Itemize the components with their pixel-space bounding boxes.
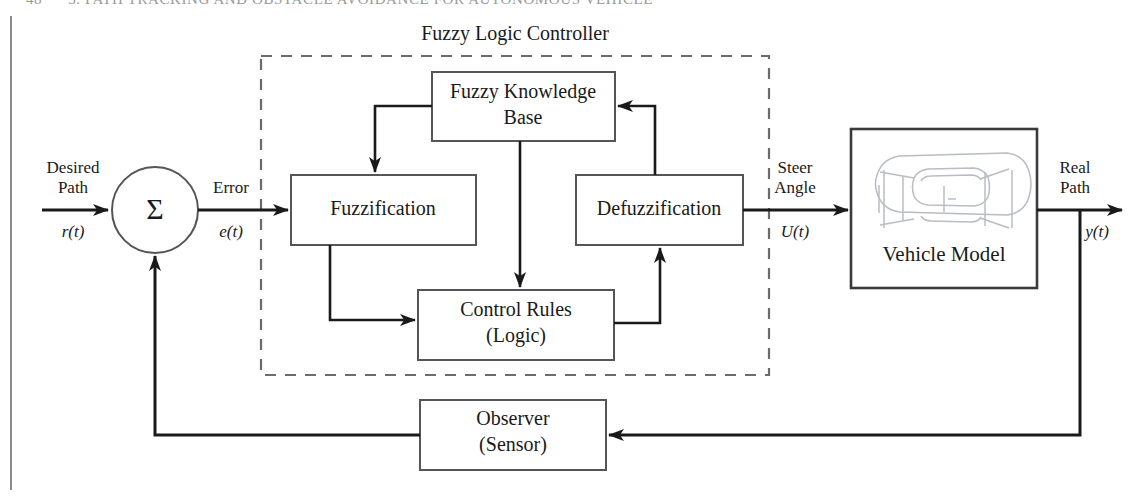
signal-output-line1: Real bbox=[1059, 158, 1090, 177]
observer-label-line2: (Sensor) bbox=[479, 434, 547, 456]
control-rules-label-line1: Control Rules bbox=[460, 299, 572, 321]
fuzzy-logic-controller-title: Fuzzy Logic Controller bbox=[421, 22, 609, 44]
summing-junction-symbol: Σ bbox=[146, 192, 163, 226]
signal-output-line2: Path bbox=[1060, 178, 1090, 197]
signal-control-line2: Angle bbox=[774, 178, 816, 197]
signal-error-line1: Error bbox=[213, 178, 249, 197]
signal-input-line2: Path bbox=[58, 178, 88, 197]
fuzzification-label: Fuzzification bbox=[330, 197, 436, 219]
connector-observer-to-sum bbox=[155, 256, 420, 435]
fuzzy-knowledge-base-label-line2: Base bbox=[504, 107, 543, 129]
connector-fuzzification-to-control-rules bbox=[330, 245, 415, 320]
control-rules-label-line2: (Logic) bbox=[486, 325, 546, 347]
fuzzy-knowledge-base-label-line1: Fuzzy Knowledge bbox=[450, 81, 596, 103]
observer-label-line1: Observer bbox=[476, 408, 549, 430]
connector-fkb-to-fuzzification bbox=[375, 106, 432, 172]
signal-input-line1: Desired bbox=[47, 158, 100, 177]
connector-control-rules-to-defuzzification bbox=[614, 248, 660, 323]
signal-output-symbol: y(t) bbox=[1085, 222, 1109, 241]
defuzzification-label: Defuzzification bbox=[597, 197, 721, 219]
connector-defuzzification-to-fkb bbox=[618, 106, 655, 175]
signal-error-symbol: e(t) bbox=[219, 222, 243, 241]
vehicle-model-label: Vehicle Model bbox=[882, 243, 1005, 267]
diagram-page: 483. PATH TRACKING AND OBSTACLE AVOIDANC… bbox=[0, 0, 1130, 503]
signal-control-line1: Steer bbox=[778, 158, 813, 177]
signal-input-symbol: r(t) bbox=[62, 222, 85, 241]
signal-control-symbol: U(t) bbox=[781, 222, 809, 241]
